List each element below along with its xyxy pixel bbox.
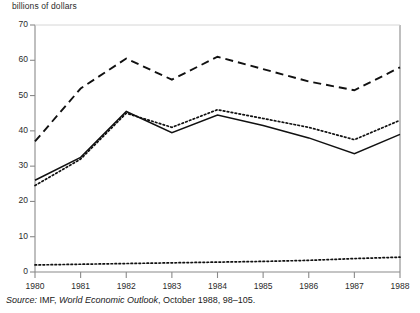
chart-series-layer <box>35 57 400 265</box>
x-tick-label: 1983 <box>152 281 192 291</box>
y-axis-ticks <box>30 25 35 272</box>
x-axis-ticks <box>35 272 400 278</box>
x-tick-label: 1987 <box>334 281 374 291</box>
y-tick-label: 40 <box>2 125 28 135</box>
source-note: Source: IMF, World Economic Outlook, Oct… <box>6 295 255 305</box>
x-tick-label: 1980 <box>15 281 55 291</box>
x-tick-label: 1981 <box>61 281 101 291</box>
y-tick-label: 10 <box>2 231 28 241</box>
x-tick-label: 1988 <box>380 281 420 291</box>
source-label: Source: <box>6 295 37 305</box>
chart-container: billions of dollars 010203040506070 1980… <box>0 0 420 313</box>
source-rest: , October 1988, 98–105. <box>158 295 255 305</box>
y-tick-label: 50 <box>2 90 28 100</box>
x-tick-label: 1982 <box>106 281 146 291</box>
y-tick-label: 0 <box>2 266 28 276</box>
chart-series-solid-middle <box>35 111 400 180</box>
y-tick-label: 20 <box>2 195 28 205</box>
source-org: IMF, <box>40 295 57 305</box>
chart-series-dashed-upper <box>35 57 400 142</box>
x-tick-label: 1985 <box>243 281 283 291</box>
x-tick-label: 1984 <box>198 281 238 291</box>
x-tick-label: 1986 <box>289 281 329 291</box>
y-tick-label: 70 <box>2 19 28 29</box>
y-tick-label: 30 <box>2 160 28 170</box>
y-tick-label: 60 <box>2 54 28 64</box>
source-publication: World Economic Outlook <box>59 295 158 305</box>
chart-plot-area <box>0 0 420 313</box>
chart-series-dotted-lower <box>35 257 400 265</box>
